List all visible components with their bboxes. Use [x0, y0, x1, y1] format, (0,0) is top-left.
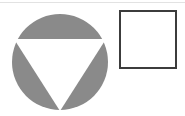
- shapes-figure: [0, 0, 185, 116]
- circle-with-inverted-triangle-group: [12, 14, 108, 111]
- diagram-canvas: [0, 0, 185, 116]
- empty-square-shape: [120, 11, 176, 68]
